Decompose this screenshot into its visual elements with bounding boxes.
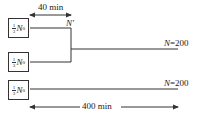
output-label-1: N=200 [164, 38, 189, 48]
junction-label: N′ [66, 18, 74, 28]
population-box-2: 13 N0 [8, 52, 29, 72]
output-label-2: N=200 [164, 78, 189, 88]
merge-line [30, 28, 71, 62]
population-box-3: 13 N0 [8, 80, 29, 100]
population-box-1: 13 N0 [8, 18, 29, 38]
bottom-duration-label: 400 min [82, 101, 112, 111]
top-duration-label: 40 min [38, 2, 63, 12]
